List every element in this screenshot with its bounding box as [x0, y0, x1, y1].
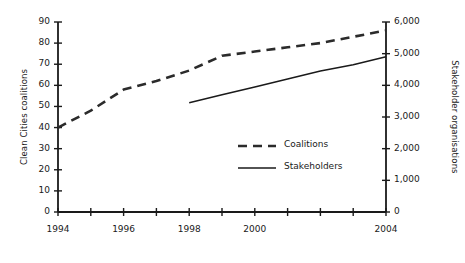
right-axis-tick-label: 2,000 [394, 143, 434, 153]
right-axis-tick-label: 5,000 [394, 48, 434, 58]
left-axis-tick-label: 60 [24, 79, 50, 89]
left-axis-tick-label: 90 [24, 16, 50, 26]
left-axis-tick-label: 0 [24, 206, 50, 216]
chart-container: Clean Cities coalitions Stakeholder orga… [0, 0, 465, 263]
x-axis-tick-label: 1994 [36, 224, 80, 234]
left-axis-tick-label: 30 [24, 143, 50, 153]
x-axis-tick-label: 1996 [102, 224, 146, 234]
left-axis-tick-label: 70 [24, 58, 50, 68]
left-axis-tick-label: 40 [24, 122, 50, 132]
left-axis-tick-label: 20 [24, 164, 50, 174]
left-axis-tick-label: 50 [24, 100, 50, 110]
right-axis-tick-label: 4,000 [394, 79, 434, 89]
right-axis-tick-label: 3,000 [394, 111, 434, 121]
right-axis-tick-label: 0 [394, 206, 434, 216]
right-axis-tick-label: 6,000 [394, 16, 434, 26]
legend-label-stakeholders[interactable]: Stakeholders [284, 161, 343, 171]
series-line-stakeholders [189, 57, 386, 103]
left-axis-tick-label: 10 [24, 185, 50, 195]
x-axis-tick-label: 2004 [364, 224, 408, 234]
right-axis-tick-label: 1,000 [394, 174, 434, 184]
x-axis-tick-label: 2000 [233, 224, 277, 234]
left-axis-tick-label: 80 [24, 37, 50, 47]
series-line-coalitions [58, 30, 386, 127]
x-axis-tick-label: 1998 [167, 224, 211, 234]
legend-label-coalitions[interactable]: Coalitions [284, 139, 328, 149]
